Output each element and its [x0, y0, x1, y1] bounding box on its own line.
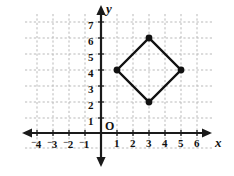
x-tick-label-6: 6 — [194, 138, 200, 149]
x-axis-label: x — [215, 136, 222, 149]
vertex-point — [146, 35, 153, 42]
vertex-point — [146, 99, 153, 106]
y-axis-label: y — [106, 2, 112, 15]
x-tick-label-5: 5 — [178, 138, 184, 149]
y-tick-label-7: 7 — [88, 20, 94, 31]
x-tick-label-neg4: −4 — [31, 138, 41, 150]
x-tick-label-neg3: −3 — [47, 138, 57, 150]
origin-label: O — [105, 120, 114, 132]
x-tick-label-2: 2 — [130, 138, 136, 149]
vertex-point — [178, 67, 185, 74]
y-tick-label-6: 6 — [88, 36, 94, 47]
x-tick-label-neg1: −1 — [79, 138, 89, 150]
vertex-point — [114, 67, 121, 74]
vertical-gridlines — [37, 14, 197, 148]
x-tick-label-3: 3 — [146, 138, 152, 149]
x-tick-label-neg2: −2 — [63, 138, 73, 150]
y-tick-label-4: 4 — [88, 68, 94, 79]
y-tick-label-2: 2 — [88, 100, 94, 111]
coordinate-plane-figure: 1 2 3 4 5 6 7 −4 −3 −2 −1 1 2 3 4 5 6 O … — [0, 0, 234, 176]
y-tick-label-3: 3 — [88, 84, 94, 95]
y-tick-label-5: 5 — [88, 52, 94, 63]
y-tick-label-1: 1 — [88, 116, 94, 127]
x-tick-label-4: 4 — [162, 138, 168, 149]
x-tick-label-1: 1 — [114, 138, 120, 149]
